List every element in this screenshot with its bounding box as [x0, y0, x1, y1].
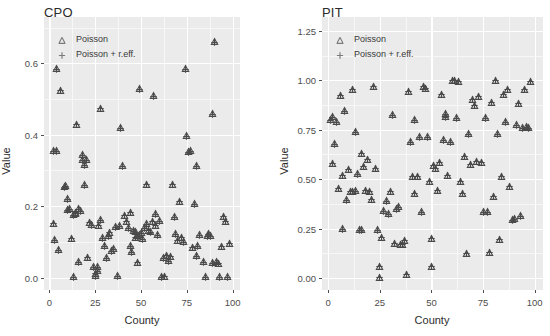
data-point-triangle	[116, 222, 123, 229]
legend-label: Poisson	[76, 34, 108, 44]
data-point-triangle	[420, 83, 427, 90]
data-point-plus	[132, 234, 139, 241]
data-point-triangle	[391, 240, 398, 247]
x-tick-mark	[483, 290, 484, 293]
data-point-plus	[349, 86, 356, 93]
data-point-triangle	[422, 85, 429, 92]
gridline-major-vertical	[535, 17, 536, 290]
data-point-plus	[500, 91, 507, 98]
data-point-triangle	[469, 96, 476, 103]
legend-row: Poisson + r.eff.	[54, 46, 136, 61]
data-point-plus	[397, 241, 404, 248]
data-point-triangle	[397, 241, 404, 248]
data-point-triangle	[496, 236, 503, 243]
data-point-triangle	[405, 88, 412, 95]
data-point-triangle	[215, 260, 222, 267]
data-point-plus	[143, 181, 150, 188]
x-tick-label: 75	[478, 297, 489, 308]
data-point-triangle	[187, 147, 194, 154]
data-point-plus	[143, 221, 150, 228]
data-point-triangle	[506, 183, 513, 190]
data-point-triangle	[167, 253, 174, 260]
data-point-plus	[75, 206, 82, 213]
data-point-triangle	[513, 121, 520, 128]
data-point-plus	[187, 148, 194, 155]
legend-row: Poisson	[54, 31, 136, 46]
data-point-triangle	[88, 221, 95, 228]
data-point-plus	[490, 193, 497, 200]
data-point-triangle	[134, 259, 141, 266]
data-point-triangle	[127, 242, 134, 249]
data-point-plus	[380, 208, 387, 215]
data-point-plus	[134, 233, 141, 240]
gridline-major-vertical	[483, 17, 484, 290]
data-point-plus	[106, 229, 113, 236]
data-point-plus	[364, 156, 371, 163]
data-point-plus	[494, 131, 501, 138]
data-point-plus	[62, 183, 69, 190]
data-point-plus	[110, 246, 117, 253]
x-tick-label: 100	[225, 297, 241, 308]
y-tick-label: 0.2	[25, 201, 38, 212]
data-point-triangle	[494, 130, 501, 137]
data-point-plus	[73, 121, 80, 128]
data-point-triangle	[329, 113, 336, 120]
data-point-plus	[180, 239, 187, 246]
data-point-plus	[329, 114, 336, 121]
data-point-plus	[194, 243, 201, 250]
data-point-plus	[352, 188, 359, 195]
data-point-triangle	[352, 187, 359, 194]
data-point-plus	[196, 232, 203, 239]
x-tick-label: 0	[47, 297, 52, 308]
data-point-plus	[156, 218, 163, 225]
data-point-triangle	[511, 215, 518, 222]
data-point-plus	[119, 163, 126, 170]
data-point-triangle	[128, 248, 135, 255]
data-point-triangle	[123, 218, 130, 225]
y-tick-mark	[319, 31, 322, 32]
data-point-plus	[354, 171, 361, 178]
data-point-plus	[189, 244, 196, 251]
data-point-triangle	[108, 247, 115, 254]
y-tick-mark	[319, 278, 322, 279]
data-point-triangle	[467, 161, 474, 168]
data-point-triangle	[64, 206, 71, 213]
data-point-triangle	[193, 252, 200, 259]
facet-pit: PIT0.000.250.500.751.001.250255075100Cou…	[275, 0, 550, 336]
data-point-plus	[127, 243, 134, 250]
data-point-plus	[174, 237, 181, 244]
y-tick-mark	[41, 63, 44, 64]
data-point-triangle	[154, 231, 161, 238]
data-point-triangle	[171, 213, 178, 220]
data-point-plus	[132, 229, 139, 236]
data-point-triangle	[79, 156, 86, 163]
data-point-plus	[134, 259, 141, 266]
data-point-plus	[368, 196, 375, 203]
gridline-minor-vertical	[457, 17, 458, 290]
x-tick-label: 50	[136, 297, 147, 308]
data-point-triangle	[360, 163, 367, 170]
data-point-triangle	[101, 242, 108, 249]
data-point-triangle	[110, 245, 117, 252]
data-point-triangle	[444, 172, 451, 179]
data-point-plus	[88, 222, 95, 229]
data-point-plus	[154, 232, 161, 239]
data-point-triangle	[77, 207, 84, 214]
data-point-triangle	[226, 240, 233, 247]
gridline-minor-vertical	[509, 17, 510, 290]
data-point-triangle	[55, 246, 62, 253]
data-point-triangle	[132, 228, 139, 235]
x-tick-label: 100	[527, 297, 543, 308]
data-point-plus	[444, 172, 451, 179]
data-point-plus	[496, 236, 503, 243]
x-axis-title: County	[125, 314, 160, 326]
data-point-triangle	[189, 244, 196, 251]
y-tick-label: 1.25	[298, 25, 317, 36]
y-axis-title: Value	[278, 147, 290, 174]
data-point-triangle	[81, 161, 88, 168]
data-point-plus	[130, 228, 137, 235]
legend: PoissonPoisson + r.eff.	[54, 31, 136, 61]
data-point-triangle	[141, 224, 148, 231]
data-point-triangle	[194, 242, 201, 249]
data-point-plus	[79, 157, 86, 164]
